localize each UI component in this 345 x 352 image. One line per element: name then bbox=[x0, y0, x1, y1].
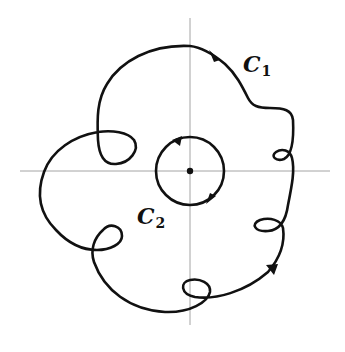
label-c2-sub: 2 bbox=[156, 215, 166, 231]
c1-arrow-top-icon bbox=[209, 50, 220, 62]
label-c2-main: C bbox=[137, 203, 155, 229]
contour-c1 bbox=[40, 46, 293, 312]
label-c1: C1 bbox=[243, 53, 271, 78]
label-c1-sub: 1 bbox=[262, 63, 272, 79]
label-c1-main: C bbox=[243, 51, 261, 77]
c2-arrow-top-icon bbox=[172, 136, 182, 146]
contour-diagram bbox=[0, 0, 345, 352]
label-c2: C2 bbox=[137, 205, 165, 230]
origin-point bbox=[187, 168, 193, 174]
